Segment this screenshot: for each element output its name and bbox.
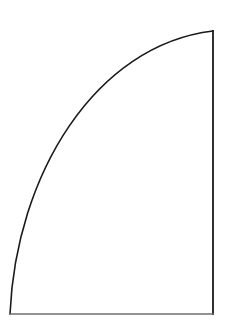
quarter-arc-diagram [0,0,228,325]
figure-canvas [0,0,228,325]
